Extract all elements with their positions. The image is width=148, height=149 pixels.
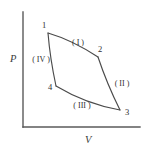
state-label-1: 1	[42, 20, 46, 30]
process-label-I: ( I )	[72, 38, 84, 47]
process-label-IV: ( IV )	[32, 55, 50, 64]
pv-diagram-figure: P V 1 2 3 4 ( I ) ( II ) ( III ) ( IV )	[0, 0, 148, 149]
state-label-2: 2	[98, 44, 102, 54]
x-axis-label: V	[85, 134, 93, 145]
state-label-4: 4	[48, 82, 53, 92]
pv-diagram-canvas: P V 1 2 3 4 ( I ) ( II ) ( III ) ( IV )	[0, 0, 148, 149]
state-label-3: 3	[125, 107, 129, 117]
process-label-II: ( II )	[115, 79, 130, 88]
y-axis-label: P	[9, 53, 17, 64]
cycle-curves-group	[48, 33, 120, 110]
process-label-III: ( III )	[73, 101, 91, 110]
